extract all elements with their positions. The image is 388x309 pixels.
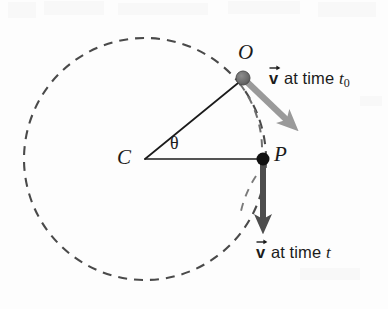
point-p-marker [257, 153, 270, 166]
vector-v-glyph-t: v [256, 243, 265, 261]
radius-line-c-to-o [145, 79, 243, 159]
point-o-marker [236, 71, 250, 85]
velocity-label-t: v at time t [256, 244, 331, 261]
velocity-label-t-middle: at time [266, 243, 326, 261]
vector-v-symbol-t0: v [269, 70, 279, 87]
velocity-label-t0-middle: at time [279, 69, 339, 87]
velocity-label-t-variable: t [326, 243, 331, 262]
point-label-o: O [238, 42, 253, 63]
velocity-label-t0-subscript: 0 [344, 76, 350, 90]
vector-v-glyph-t0: v [269, 69, 278, 87]
velocity-label-t0: v at time t0 [269, 70, 350, 89]
point-label-c: C [117, 147, 131, 168]
diagram-canvas [0, 0, 388, 309]
point-label-p: P [274, 144, 287, 165]
vector-v-symbol-t: v [256, 244, 266, 261]
circular-motion-figure: C θ O P v at time t0 v at time t [0, 0, 388, 309]
angle-label-theta: θ [170, 134, 179, 152]
